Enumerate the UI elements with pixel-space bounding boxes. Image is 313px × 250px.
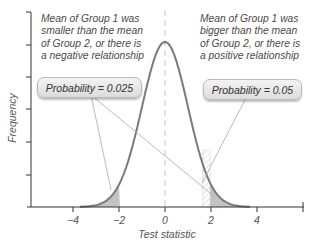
x-tick-label: −4 [67, 214, 79, 226]
probability-box-right: Probability = 0.05 [203, 79, 302, 100]
x-axis-label: Test statistic [138, 228, 195, 240]
probability-box-left: Probability = 0.025 [37, 77, 142, 98]
y-axis [26, 12, 31, 207]
x-tick-label: −2 [113, 214, 125, 226]
right-annotation: Mean of Group 1 was bigger than the mean… [200, 13, 300, 62]
y-axis-label: Frequency [6, 93, 18, 143]
x-axis [27, 202, 304, 212]
left-annotation: Mean of Group 1 was smaller than the mea… [41, 13, 144, 62]
connector-lines [91, 95, 247, 197]
test-statistic-diagram: Mean of Group 1 was smaller than the mea… [0, 0, 313, 250]
x-tick-label: 0 [162, 214, 168, 226]
x-tick-label: 2 [208, 214, 214, 226]
x-tick-label: 4 [254, 214, 260, 226]
